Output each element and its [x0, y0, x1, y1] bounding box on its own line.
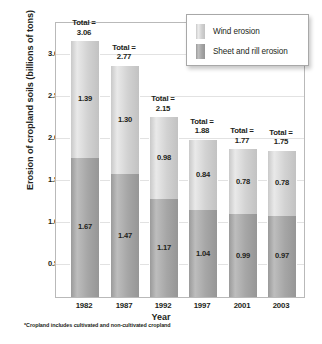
bar-value-sheet-and-rill-erosion-1987: 1.47: [111, 231, 139, 240]
bar-value-sheet-and-rill-erosion-1997: 1.04: [189, 249, 217, 258]
bar-value-wind-erosion-1987: 1.30: [111, 115, 139, 124]
bar-value-wind-erosion-1982: 1.39: [71, 94, 99, 103]
bar-segment-sheet-and-rill-erosion-1997[interactable]: 1.04: [188, 210, 218, 297]
bar-1982[interactable]: 1.391.67: [70, 41, 100, 297]
legend-item-sheet-and-rill-erosion[interactable]: Sheet and rill erosion: [195, 41, 308, 61]
legend-item-wind-erosion[interactable]: Wind erosion: [195, 21, 308, 41]
bar-total-value-1982: 3.06: [57, 28, 111, 37]
bar-segment-wind-erosion-2003[interactable]: 0.78: [267, 151, 297, 216]
legend-swatch-sheet-and-rill-erosion: [195, 43, 206, 60]
x-axis-title: Year: [0, 312, 322, 322]
bar-value-sheet-and-rill-erosion-1992: 1.17: [150, 243, 178, 252]
bar-total-1992: Total =2.15: [136, 94, 190, 113]
bar-total-prefix-1992: Total =: [136, 94, 190, 103]
bar-total-2003: Total =1.75: [254, 128, 308, 147]
bar-segment-wind-erosion-1997[interactable]: 0.84: [188, 140, 218, 210]
bar-value-sheet-and-rill-erosion-2003: 0.97: [268, 251, 296, 260]
chart-footnote: *Cropland includes cultivated and non-cu…: [24, 322, 171, 328]
bar-segment-sheet-and-rill-erosion-1992[interactable]: 1.17: [149, 199, 179, 297]
bar-total-prefix-1997: Total =: [175, 117, 229, 126]
bar-total-1982: Total =3.06: [57, 18, 111, 37]
bar-segment-sheet-and-rill-erosion-1982[interactable]: 1.67: [70, 158, 100, 298]
bar-segment-wind-erosion-1987[interactable]: 1.30: [110, 66, 140, 175]
bar-value-sheet-and-rill-erosion-2001: 0.99: [229, 251, 257, 260]
x-tick-label-2001: 2001: [222, 301, 262, 310]
bar-total-1987: Total =2.77: [97, 43, 151, 62]
bar-value-wind-erosion-1997: 0.84: [189, 170, 217, 179]
bar-value-sheet-and-rill-erosion-1982: 1.67: [71, 222, 99, 231]
x-tick-label-1992: 1992: [143, 301, 183, 310]
x-tick-label-1987: 1987: [104, 301, 144, 310]
bar-1992[interactable]: 0.981.17: [149, 117, 179, 297]
bar-2001[interactable]: 0.780.99: [228, 149, 258, 297]
bar-value-wind-erosion-2003: 0.78: [268, 178, 296, 187]
bar-total-prefix-1982: Total =: [57, 18, 111, 27]
bar-2003[interactable]: 0.780.97: [267, 151, 297, 297]
legend-label-wind-erosion: Wind erosion: [213, 27, 260, 36]
bar-segment-sheet-and-rill-erosion-1987[interactable]: 1.47: [110, 174, 140, 297]
bar-total-value-1992: 2.15: [136, 104, 190, 113]
bar-value-wind-erosion-2001: 0.78: [229, 177, 257, 186]
bar-total-value-2003: 1.75: [254, 137, 308, 146]
bar-total-value-1987: 2.77: [97, 52, 151, 61]
bar-value-wind-erosion-1992: 0.98: [150, 153, 178, 162]
bar-segment-sheet-and-rill-erosion-2001[interactable]: 0.99: [228, 214, 258, 297]
x-tick-label-1982: 1982: [64, 301, 104, 310]
bar-segment-wind-erosion-1982[interactable]: 1.39: [70, 41, 100, 157]
chart-figure: Erosion of cropland soils (billions of t…: [0, 0, 322, 344]
bar-1997[interactable]: 0.841.04: [188, 140, 218, 297]
bar-total-prefix-2003: Total =: [254, 128, 308, 137]
x-tick-label-1997: 1997: [182, 301, 222, 310]
bar-segment-wind-erosion-2001[interactable]: 0.78: [228, 149, 258, 214]
chart-legend: Wind erosion Sheet and rill erosion: [186, 14, 309, 66]
bar-segment-sheet-and-rill-erosion-2003[interactable]: 0.97: [267, 216, 297, 297]
bar-total-prefix-1987: Total =: [97, 43, 151, 52]
legend-swatch-wind-erosion: [195, 23, 206, 40]
x-tick-label-2003: 2003: [261, 301, 301, 310]
legend-label-sheet-and-rill-erosion: Sheet and rill erosion: [213, 47, 288, 56]
